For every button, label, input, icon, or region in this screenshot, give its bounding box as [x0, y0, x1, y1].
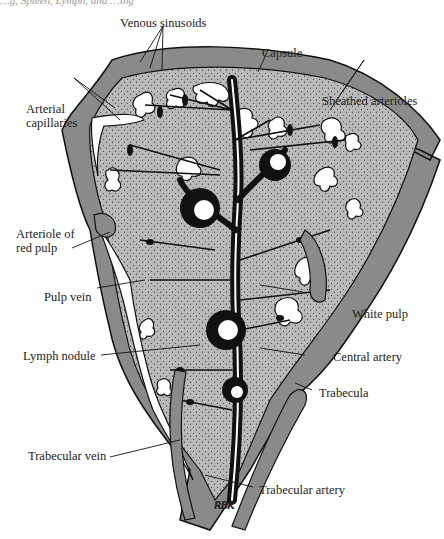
- label-arterial-capillaries-2: capillaries: [26, 116, 77, 130]
- label-venous-sinusoids: Venous sinusoids: [120, 16, 206, 30]
- label-pulp-vein: Pulp vein: [44, 290, 92, 304]
- artist-signature: RBK: [214, 500, 234, 511]
- label-arterial-capillaries-1: Arterial: [26, 102, 65, 116]
- label-capsule: Capsule: [262, 46, 302, 60]
- label-trabecula: Trabecula: [319, 386, 369, 400]
- label-arteriole-red-pulp-2: red pulp: [16, 241, 57, 255]
- label-arteriole-red-pulp-1: Arteriole of: [16, 227, 75, 241]
- label-lymph-nodule: Lymph nodule: [23, 349, 96, 363]
- label-trabecular-artery: Trabecular artery: [259, 483, 345, 497]
- label-central-artery: Central artery: [333, 350, 402, 364]
- label-white-pulp: White pulp: [352, 307, 408, 321]
- label-trabecular-vein: Trabecular vein: [28, 449, 106, 463]
- label-sheathed-arterioles: Sheathed arterioles: [322, 94, 417, 108]
